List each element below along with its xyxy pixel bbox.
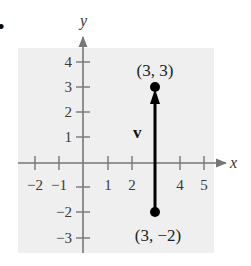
x-tick-label: −2 <box>27 177 43 193</box>
x-tick-label: 2 <box>128 177 136 193</box>
figure-bullet: • <box>0 17 4 37</box>
x-tick-label: 1 <box>104 177 112 193</box>
y-tick-label: −2 <box>56 204 72 220</box>
vector-plot: • x y −2 −1 1 2 4 5 4 3 2 1 −2 <box>0 0 251 266</box>
initial-point-label: (3, −2) <box>135 226 181 245</box>
x-tick-label: 4 <box>176 177 184 193</box>
initial-point <box>150 207 160 217</box>
y-tick-label: 2 <box>65 104 73 120</box>
x-tick-label: −1 <box>51 177 67 193</box>
terminal-point-label: (3, 3) <box>137 61 174 80</box>
y-tick-label: −3 <box>56 230 72 246</box>
y-tick-label: 3 <box>65 79 73 95</box>
y-axis-label: y <box>78 12 88 30</box>
plot-background <box>18 48 214 253</box>
x-tick-label: 5 <box>200 177 208 193</box>
y-tick-label: 1 <box>65 129 73 145</box>
y-tick-label: 4 <box>65 54 73 70</box>
x-axis-label: x <box>229 154 237 171</box>
terminal-point <box>150 82 160 92</box>
vector-label: v <box>133 123 142 142</box>
